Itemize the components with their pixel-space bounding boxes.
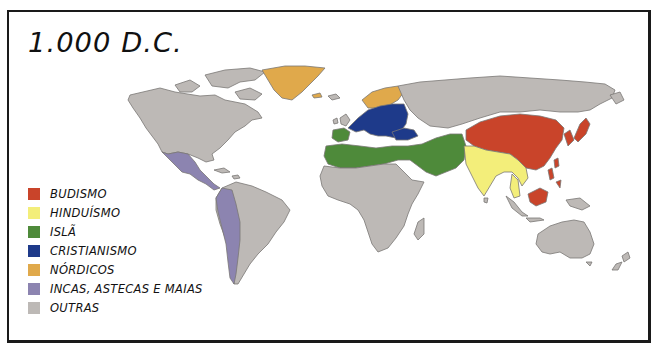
legend-item-isla: ISLÃ	[28, 223, 203, 240]
borneo	[528, 188, 548, 206]
legend-label: NÓRDICOS	[50, 263, 115, 277]
legend-item-nordicos: NÓRDICOS	[28, 261, 203, 278]
canada-arctic-islands	[205, 68, 265, 88]
australia	[536, 220, 594, 258]
legend-label: CRISTIANISMO	[50, 244, 137, 258]
map-title: 1.000 D.C.	[28, 28, 183, 58]
legend-swatch-hinduismo	[28, 207, 40, 219]
legend-label: HINDUÍSMO	[50, 206, 120, 220]
legend-label: ISLÃ	[50, 225, 76, 239]
legend-swatch-nordicos	[28, 264, 40, 276]
legend-item-outras: OUTRAS	[28, 299, 203, 316]
iberia	[332, 128, 350, 142]
legend-item-cristianismo: CRISTIANISMO	[28, 242, 203, 259]
legend-item-hinduismo: HINDUÍSMO	[28, 204, 203, 221]
legend-label: OUTRAS	[50, 301, 99, 315]
legend-swatch-incas	[28, 283, 40, 295]
africa	[320, 164, 424, 252]
legend-swatch-cristianismo	[28, 245, 40, 257]
legend-item-incas: INCAS, ASTECAS E MAIAS	[28, 280, 203, 297]
legend-item-budismo: BUDISMO	[28, 185, 203, 202]
legend-label: INCAS, ASTECAS E MAIAS	[50, 282, 203, 296]
legend-swatch-outras	[28, 302, 40, 314]
map-legend: BUDISMO HINDUÍSMO ISLÃ CRISTIANISMO NÓRD…	[28, 185, 203, 318]
legend-swatch-budismo	[28, 188, 40, 200]
legend-swatch-isla	[28, 226, 40, 238]
legend-label: BUDISMO	[50, 187, 107, 201]
